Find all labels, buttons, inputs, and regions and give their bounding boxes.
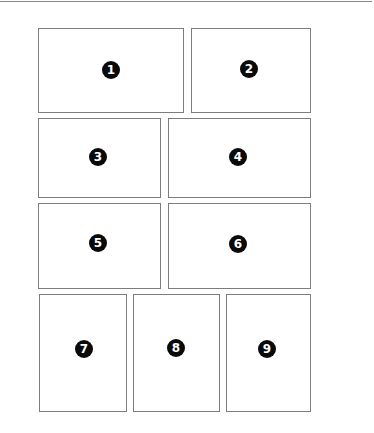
panel-number-badge: 6 bbox=[229, 235, 247, 253]
panel-number-badge: 3 bbox=[89, 148, 107, 166]
panel-number-badge: 7 bbox=[75, 340, 93, 358]
panel-number-badge: 9 bbox=[258, 340, 276, 358]
top-rule bbox=[0, 1, 372, 2]
panel-number-badge: 5 bbox=[89, 234, 107, 252]
panel-number-badge: 1 bbox=[102, 61, 120, 79]
panel-number-badge: 4 bbox=[229, 148, 247, 166]
panel-number-badge: 2 bbox=[240, 60, 258, 78]
panel-number-badge: 8 bbox=[167, 339, 185, 357]
